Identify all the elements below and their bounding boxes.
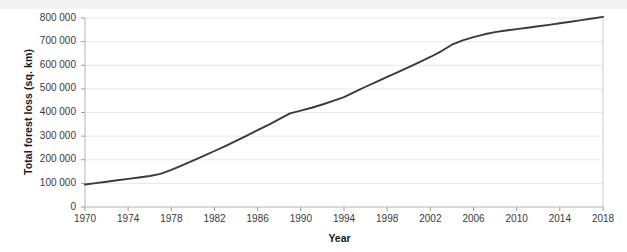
x-tick-label: 1998 (364, 213, 410, 224)
x-axis-title: Year (0, 232, 627, 244)
x-tick-label: 1982 (192, 213, 238, 224)
x-tick-label: 2002 (407, 213, 453, 224)
y-tickmarks-group (81, 18, 85, 207)
x-axis-title-text: Year (328, 232, 350, 244)
x-tick-label: 1990 (278, 213, 324, 224)
x-tick-label: 1974 (105, 213, 151, 224)
x-tick-label: 1978 (148, 213, 194, 224)
x-tick-label: 2006 (451, 213, 497, 224)
chart-figure: 0100 000200 000300 000400 000500 000600 … (0, 0, 627, 252)
y-axis-title: Total forest loss (sq. km) (22, 22, 34, 202)
x-tick-label: 2014 (537, 213, 583, 224)
x-tickmarks-group (85, 207, 603, 211)
y-tick-label: 0 (20, 201, 76, 212)
x-tick-label: 1994 (321, 213, 367, 224)
gridlines-group (85, 18, 603, 183)
x-tick-label: 2010 (494, 213, 540, 224)
x-tick-label: 1986 (235, 213, 281, 224)
x-tick-label: 1970 (62, 213, 108, 224)
x-tick-label: 2018 (580, 213, 626, 224)
y-tick-label: 800 000 (20, 12, 76, 23)
